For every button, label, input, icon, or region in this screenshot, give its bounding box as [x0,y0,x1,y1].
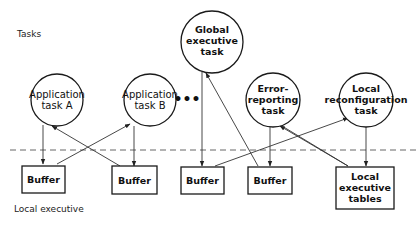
application-task-b-node: Application task B [122,74,178,126]
diagram-canvas: Tasks Local executive Global executive t… [0,0,417,225]
svg-text:Buffer: Buffer [118,175,151,186]
buffer-3-node: Buffer [181,167,224,194]
svg-text:task: task [262,105,286,116]
svg-text:reconfiguration: reconfiguration [325,94,408,105]
svg-text:Global: Global [195,24,229,35]
svg-text:task B: task B [134,100,165,111]
svg-text:Error-: Error- [257,83,288,94]
edge-buffer1-to-appB [57,124,130,164]
buffer-1-node: Buffer [22,166,65,193]
svg-text:Buffer: Buffer [186,175,219,186]
svg-text:tables: tables [348,193,381,204]
svg-text:reporting: reporting [248,94,299,105]
svg-text:task A: task A [41,100,72,111]
local-executive-section-label: Local executive [14,204,84,214]
global-executive-task-node: Global executive task [181,11,243,73]
buffer-4-node: Buffer [248,167,292,194]
svg-text:task: task [201,46,225,57]
more-tasks-ellipsis: ••• [174,91,201,107]
svg-text:Application: Application [122,89,178,100]
svg-text:Local: Local [352,83,380,94]
local-reconfiguration-task-node: Local reconfiguration task [325,73,408,127]
tasks-section-label: Tasks [16,29,41,39]
svg-text:executive: executive [186,35,238,46]
svg-text:executive: executive [339,182,391,193]
application-task-a-node: Application task A [29,74,85,126]
svg-text:Buffer: Buffer [27,174,60,185]
local-executive-tables-node: Local executive tables [336,167,394,209]
svg-text:Local: Local [351,171,379,182]
svg-text:task: task [355,105,379,116]
edge-error-tables-back [282,126,348,166]
svg-text:Application: Application [29,89,85,100]
error-reporting-task-node: Error- reporting task [246,73,300,127]
edge-buffer2-to-appA [52,126,120,166]
svg-text:Buffer: Buffer [254,175,287,186]
buffer-2-node: Buffer [112,166,157,194]
